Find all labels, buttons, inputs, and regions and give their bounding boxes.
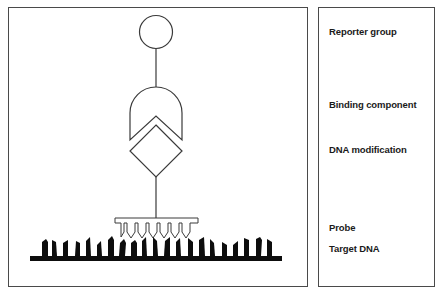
legend-label-probe: Probe	[329, 222, 355, 233]
legend-label-reporter-group: Reporter group	[329, 26, 397, 37]
legend-label-binding-component: Binding component	[329, 99, 416, 110]
target-dna-shape	[30, 236, 282, 261]
probe-shape	[115, 218, 198, 238]
legend-label-target-dna: Target DNA	[329, 243, 380, 254]
legend-label-dna-modification: DNA modification	[329, 144, 407, 155]
binding-component-shape	[130, 87, 182, 140]
reporter-group-circle	[140, 16, 173, 49]
